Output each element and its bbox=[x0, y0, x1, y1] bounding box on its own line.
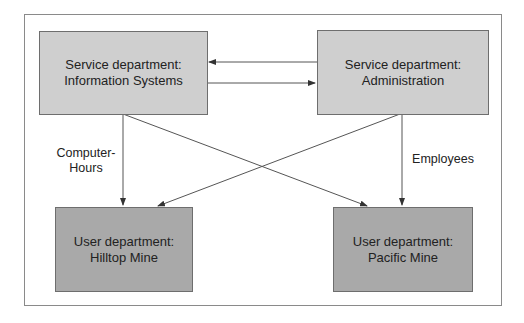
node-hilltop-mine: User department: Hilltop Mine bbox=[55, 207, 193, 292]
node-label-line1: Service department: bbox=[65, 57, 181, 73]
node-label-line2: Administration bbox=[362, 73, 444, 89]
label-employees: Employees bbox=[408, 152, 478, 167]
node-label-line2: Pacific Mine bbox=[368, 250, 438, 266]
node-label-line1: User department: bbox=[353, 234, 453, 250]
label-computer-hours: Computer- Hours bbox=[56, 146, 116, 176]
node-information-systems: Service department: Information Systems bbox=[39, 31, 208, 115]
node-pacific-mine: User department: Pacific Mine bbox=[333, 207, 473, 292]
node-administration: Service department: Administration bbox=[317, 30, 489, 115]
node-label-line2: Information Systems bbox=[64, 73, 183, 89]
label-computer-hours-line2: Hours bbox=[56, 161, 116, 176]
node-label-line1: User department: bbox=[74, 234, 174, 250]
label-computer-hours-line1: Computer- bbox=[56, 146, 116, 161]
node-label-line1: Service department: bbox=[345, 57, 461, 73]
node-label-line2: Hilltop Mine bbox=[90, 250, 158, 266]
